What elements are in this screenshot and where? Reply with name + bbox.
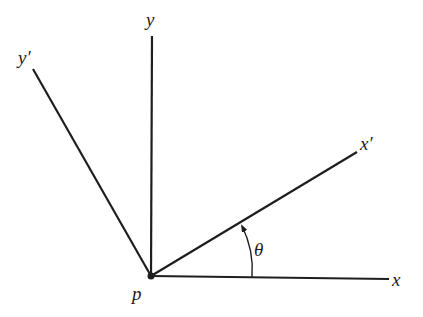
y-prime-axis-label: y′ xyxy=(16,47,31,68)
origin-label: p xyxy=(130,283,142,304)
rotated-axes-diagram: y y′ x′ x θ p xyxy=(0,0,423,317)
x-axis-label: x xyxy=(391,269,401,290)
y-axis xyxy=(151,36,152,276)
x-axis xyxy=(151,276,389,279)
y-axis-label: y xyxy=(144,9,155,30)
theta-label: θ xyxy=(254,239,263,260)
y-prime-axis xyxy=(33,69,151,276)
theta-arc-arrow xyxy=(242,226,252,277)
x-prime-axis-label: x′ xyxy=(359,133,373,154)
diagram-svg: y y′ x′ x θ p xyxy=(0,0,423,317)
origin-point xyxy=(148,273,155,280)
